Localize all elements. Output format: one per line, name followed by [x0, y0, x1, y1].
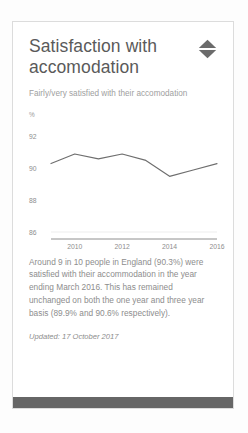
y-axis-unit-label: % [29, 111, 35, 118]
card-footer-bar [13, 397, 233, 408]
page-title: Satisfaction with accomodation [29, 36, 181, 78]
card-header: Satisfaction with accomodation [29, 36, 217, 78]
x-axis-tick-label: 2016 [209, 243, 224, 250]
statistic-card: Satisfaction with accomodation Fairly/ve… [12, 21, 234, 409]
x-axis-tick-label: 2010 [67, 243, 82, 250]
line-chart-svg [29, 121, 219, 240]
screen: Satisfaction with accomodation Fairly/ve… [0, 0, 248, 433]
updated-timestamp: Updated: 17 October 2017 [29, 331, 217, 342]
y-axis-tick-label: 90 [29, 164, 37, 171]
data-series-line [51, 154, 217, 176]
y-axis-tick-label: 92 [29, 133, 37, 140]
chart: % 92908886 2010201220142016 [29, 112, 219, 240]
chart-plot-area: 92908886 2010201220142016 [29, 121, 219, 240]
card-content: Satisfaction with accomodation Fairly/ve… [13, 22, 233, 342]
summary-text: Around 9 in 10 people in England (90.3%)… [29, 256, 209, 320]
card-subtitle: Fairly/very satisfied with their accomod… [29, 88, 189, 101]
x-axis-tick-label: 2012 [115, 243, 130, 250]
sort-diamond-icon[interactable] [198, 39, 217, 59]
x-axis-tick-label: 2014 [162, 243, 177, 250]
y-axis-tick-label: 88 [29, 196, 37, 203]
y-axis-tick-label: 86 [29, 228, 37, 235]
